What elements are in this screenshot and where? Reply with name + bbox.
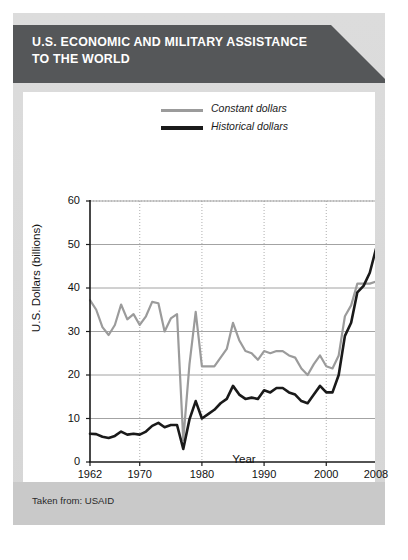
chart-footer: Taken from: USAID (13, 482, 385, 525)
page-title: U.S. ECONOMIC AND MILITARY ASSISTANCE TO… (32, 34, 322, 67)
x-tick-label: 1990 (244, 468, 284, 480)
y-tick-label: 0 (54, 455, 80, 467)
x-axis-label: Year (99, 452, 389, 465)
title-banner: U.S. ECONOMIC AND MILITARY ASSISTANCE TO… (13, 25, 385, 83)
data-series-layer (90, 249, 375, 449)
y-tick-label: 10 (54, 412, 80, 424)
series-line-historical-dollars (90, 249, 375, 449)
y-tick-label: 60 (54, 194, 80, 206)
grid-lines (90, 201, 375, 462)
y-tick-label: 20 (54, 368, 80, 380)
y-tick-label: 50 (54, 238, 80, 250)
x-tick-label: 1962 (70, 468, 110, 480)
x-tick-label: 1970 (120, 468, 160, 480)
y-axis-label: U.S. Dollars (billions) (29, 178, 42, 378)
chart-plot-card: Constant dollars Historical dollars 0102… (23, 92, 375, 482)
series-line-constant-dollars (90, 281, 375, 440)
source-attribution: Taken from: USAID (32, 495, 114, 506)
y-tick-label: 30 (54, 325, 80, 337)
figure-panel: U.S. ECONOMIC AND MILITARY ASSISTANCE TO… (13, 13, 385, 525)
x-tick-label: 2008 (356, 468, 396, 480)
x-tick-label: 1980 (182, 468, 222, 480)
x-tick-label: 2000 (306, 468, 346, 480)
y-tick-label: 40 (54, 281, 80, 293)
